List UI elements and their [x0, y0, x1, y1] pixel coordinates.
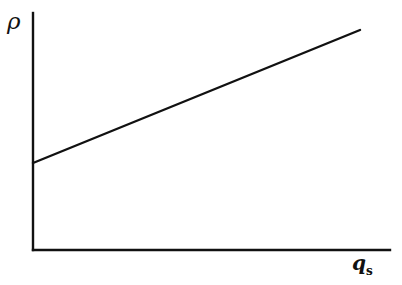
plot-area [0, 0, 402, 285]
y-axis-label: ρ [7, 10, 21, 33]
x-axis-label-base: q [352, 251, 366, 275]
x-axis-label-subscript: s [366, 264, 373, 278]
data-line-rho [33, 30, 360, 163]
x-axis-label: qs [352, 253, 373, 277]
figure-canvas: ρ qs [0, 0, 402, 285]
